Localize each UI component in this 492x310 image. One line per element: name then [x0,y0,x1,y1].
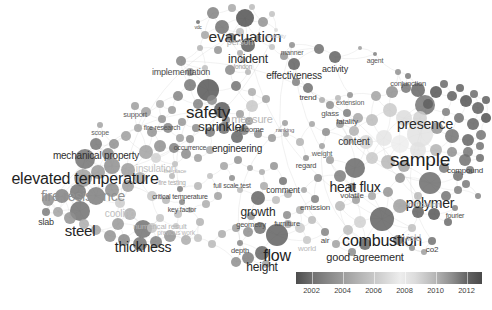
network-node [231,81,241,91]
network-node [262,95,270,103]
network-node [296,138,304,146]
network-node [91,165,105,179]
network-node [91,225,101,235]
network-node [214,46,222,54]
network-node [173,91,183,101]
network-node [133,237,147,251]
network-node [258,17,268,27]
network-node [220,162,228,170]
network-node [247,165,253,171]
network-node-person [236,28,244,36]
network-node [225,65,235,75]
network-node [343,225,353,235]
network-node [186,68,194,76]
network-node-furniture [283,211,291,219]
network-node [368,192,376,200]
network-node [156,100,164,108]
network-node [472,102,484,114]
network-node [234,156,242,164]
network-node-numerical-result [156,214,164,222]
network-node [208,240,216,248]
network-node-mechanical-property [90,138,102,150]
network-node [326,156,334,164]
colorbar-tick-label-2008: 2008 [396,286,413,295]
network-node [147,191,157,201]
network-node [322,128,330,136]
network-node [192,124,200,132]
network-node [376,130,392,146]
network-node [444,218,452,226]
colorbar-tick-mark [312,272,313,284]
network-node-depth [237,240,243,246]
network-node-critical-temperature [177,186,183,192]
network-node [371,91,381,101]
network-node [112,218,124,230]
colorbar-tick-mark [467,272,468,284]
network-node [237,187,243,193]
network-node [42,194,54,206]
network-node [383,103,397,117]
network-node [366,152,378,164]
network-node [79,219,89,229]
network-node [319,97,325,103]
network-node [254,222,266,234]
network-node [168,106,176,114]
network-node [353,113,363,123]
network-node [134,172,146,184]
network-node [439,163,449,173]
network-node [260,182,268,190]
network-node-growth [251,191,265,205]
network-node [255,35,261,41]
network-node [440,80,448,88]
network-node [308,216,316,224]
network-node [423,99,433,109]
network-node [78,174,90,186]
network-node [270,162,278,170]
network-node-incident [241,38,255,52]
network-node [412,206,424,218]
network-node-previous-work [173,223,179,229]
network-node [202,65,208,71]
network-node [222,116,230,124]
network-node [121,131,131,141]
network-node [335,201,345,211]
network-node-conjunction [405,73,411,79]
colorbar-tick-mark [405,272,406,284]
network-node [454,186,462,194]
network-node-air [321,228,329,236]
network-node [269,44,275,50]
network-node [236,110,244,118]
network-node [466,166,474,174]
network-node [207,173,213,179]
network-node [409,245,415,251]
network-node [163,123,173,133]
network-node [462,134,474,146]
network-node [181,149,191,159]
network-node [150,236,162,248]
network-node [343,135,353,145]
colorbar-tick-label-2002: 2002 [303,286,320,295]
network-node [391,135,409,153]
network-node [268,134,276,142]
network-node [352,196,360,204]
colorbar-tick-label-2006: 2006 [365,286,382,295]
network-node [193,99,203,109]
network-node-manner [289,42,295,48]
network-node [226,33,236,43]
network-node-good-agreement [359,238,371,250]
network-node [358,46,362,50]
network-node [393,235,403,245]
network-node [447,91,457,101]
year-colorbar-legend: 200220042006200820102012 [296,272,482,304]
network-node [243,227,253,237]
network-node [430,86,442,98]
network-node [453,171,463,181]
network-node [359,135,373,149]
network-node-polymer [419,172,441,194]
network-node-fourier [452,205,458,211]
network-node-scope [97,122,103,128]
network-node [174,210,182,218]
network-node-extension [347,92,353,98]
network-node [428,208,440,220]
network-node [463,147,473,157]
